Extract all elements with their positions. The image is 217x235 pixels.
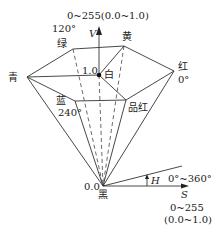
white-label: 白 [104,68,114,80]
black-label: 黑 [98,189,108,200]
red-label: 红 [178,60,188,72]
s-range-label-norm: (0.0~1.0) [164,214,212,225]
edge-cyan [27,77,103,186]
green-angle: 120° [52,23,76,34]
blue-label: 蓝 [56,95,66,106]
cyan-label: 青 [8,71,18,83]
hidden-axis-v [99,75,103,186]
s-range-label: 0~255 [170,202,204,213]
white-value: 1.0 [82,65,98,76]
h-symbol: H [150,175,160,186]
green-label: 绿 [57,37,67,49]
magenta-label: 品红 [128,101,148,113]
edge-magenta [103,100,126,186]
s-axis-arrow-icon [181,184,189,189]
hsv-hexcone-diagram: 0~255(0.0~1.0) V 120° 绿 黄 红 0° 青 1.0 白 蓝… [0,0,217,235]
s-symbol: S [181,189,188,200]
h-range-label: 0°~360° [168,173,212,184]
red-angle: 0° [178,74,189,85]
blue-angle: 240° [58,107,82,118]
v-axis-arrow-icon [96,26,102,35]
v-range-label: 0~255(0.0~1.0) [67,10,149,21]
yellow-label: 黄 [122,30,132,42]
